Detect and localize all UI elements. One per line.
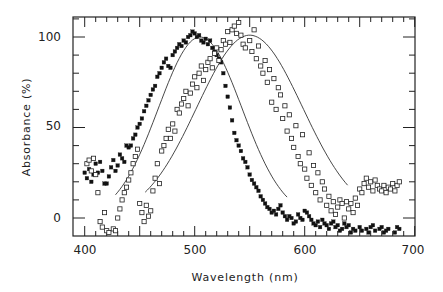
open-square-point <box>274 107 278 111</box>
filled-square-point <box>202 41 206 45</box>
filled-square-point <box>347 223 351 227</box>
open-square-point <box>168 136 172 140</box>
open-square-point <box>276 86 280 90</box>
open-square-point <box>116 216 120 220</box>
filled-square-point <box>131 137 135 141</box>
filled-square-point <box>283 214 287 218</box>
open-square-point <box>316 171 320 175</box>
filled-square-point <box>226 95 230 99</box>
filled-square-point <box>277 207 281 211</box>
open-square-point <box>193 75 197 79</box>
filled-square-point <box>244 160 248 164</box>
open-square-point <box>243 46 247 50</box>
open-square-point <box>307 151 311 155</box>
filled-square-point <box>250 178 254 182</box>
open-square-point <box>131 162 135 166</box>
open-square-point <box>298 162 302 166</box>
open-square-point <box>373 178 377 182</box>
open-square-point <box>118 207 122 211</box>
filled-square-point <box>142 109 146 113</box>
open-square-point <box>127 178 131 182</box>
filled-square-point <box>136 126 140 130</box>
open-square-point <box>129 171 133 175</box>
filled-square-point <box>237 144 241 148</box>
filled-square-point <box>145 104 149 108</box>
filled-square-point <box>193 32 197 36</box>
open-square-point <box>349 201 353 205</box>
open-square-point <box>322 187 326 191</box>
filled-square-point <box>387 227 391 231</box>
open-square-point <box>151 189 155 193</box>
open-square-point <box>228 40 232 44</box>
open-square-point <box>215 46 219 50</box>
filled-square-point <box>173 50 177 54</box>
open-square-point <box>144 203 148 207</box>
filled-square-point <box>305 211 309 215</box>
filled-square-point <box>208 39 212 43</box>
open-square-point <box>89 169 93 173</box>
filled-square-point <box>290 216 294 220</box>
open-square-point <box>133 154 137 158</box>
open-square-point <box>300 133 304 137</box>
filled-square-point <box>241 157 245 161</box>
filled-square-point <box>261 198 265 202</box>
open-square-point <box>124 185 128 189</box>
open-square-point <box>199 64 203 68</box>
filled-square-point <box>114 169 118 173</box>
open-square-point <box>177 111 181 115</box>
open-square-point <box>382 183 386 187</box>
open-square-point <box>261 71 265 75</box>
open-square-point <box>226 30 230 34</box>
y-tick-label-0: 0 <box>53 211 61 225</box>
open-square-point <box>164 136 168 140</box>
open-square-point <box>166 127 170 131</box>
filled-square-point <box>175 46 179 50</box>
filled-square-point <box>263 202 267 206</box>
open-square-point <box>369 180 373 184</box>
open-square-point <box>270 100 274 104</box>
open-square-point <box>344 200 348 204</box>
filled-square-point <box>327 227 331 231</box>
open-square-point <box>190 82 194 86</box>
open-square-point <box>254 57 258 61</box>
filled-square-point <box>206 42 210 46</box>
filled-square-point <box>336 223 340 227</box>
filled-square-point <box>107 175 111 179</box>
filled-square-point <box>279 204 283 208</box>
open-square-point <box>149 209 153 213</box>
filled-square-point <box>268 207 272 211</box>
filled-square-point <box>120 157 124 161</box>
open-square-point <box>265 80 269 84</box>
filled-square-point <box>296 213 300 217</box>
filled-square-point <box>180 44 184 48</box>
filled-square-point <box>373 229 377 233</box>
filled-square-point <box>367 231 371 235</box>
filled-square-point <box>189 33 193 37</box>
filled-square-point <box>255 185 259 189</box>
open-square-point <box>173 129 177 133</box>
open-square-point <box>355 203 359 207</box>
open-square-point <box>397 180 401 184</box>
filled-square-point <box>153 84 157 88</box>
open-square-point <box>281 116 285 120</box>
filled-square-point <box>343 222 347 226</box>
filled-square-point <box>365 227 369 231</box>
filled-square-point <box>252 182 256 186</box>
x-tick-label-400: 400 <box>74 243 97 257</box>
open-square-point <box>223 42 227 46</box>
open-square-point <box>327 194 331 198</box>
open-square-point <box>331 200 335 204</box>
x-axis-label: Wavelength (nm) <box>191 271 298 284</box>
open-square-point <box>384 191 388 195</box>
open-square-point <box>320 180 324 184</box>
filled-square-point <box>235 138 239 142</box>
open-square-point <box>272 77 276 81</box>
x-tick-label-600: 600 <box>294 243 317 257</box>
filled-square-point <box>272 209 276 213</box>
filled-square-point <box>90 180 94 184</box>
filled-square-point <box>169 66 173 70</box>
filled-square-point <box>134 133 138 137</box>
open-square-point <box>102 211 106 215</box>
filled-square-point <box>228 106 232 110</box>
open-square-point <box>91 156 95 160</box>
